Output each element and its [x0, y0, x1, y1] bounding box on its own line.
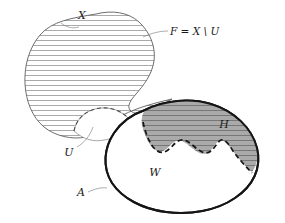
label-h: H: [218, 118, 229, 131]
set-diagram-figure: X F = X \ U U A W H: [0, 0, 285, 223]
leader-line-a: [88, 188, 107, 192]
label-a: A: [76, 186, 85, 199]
label-f-definition: F = X \ U: [169, 25, 220, 37]
label-x: X: [77, 9, 87, 22]
label-u: U: [64, 146, 74, 159]
label-w: W: [149, 166, 162, 179]
diagram-canvas: X F = X \ U U A W H: [0, 0, 285, 223]
